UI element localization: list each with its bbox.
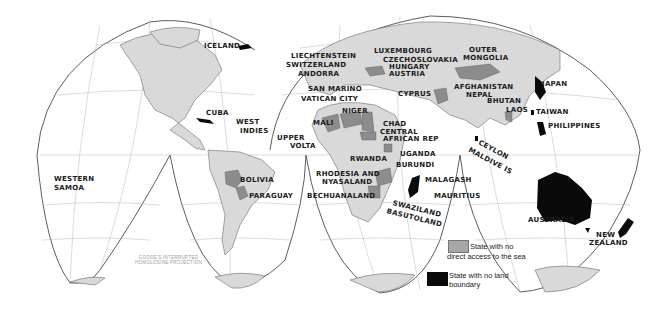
label-chad: CHAD <box>383 120 406 128</box>
label-bechuanaland: BECHUANALAND <box>307 192 375 200</box>
label-cyprus: CYPRUS <box>398 90 431 98</box>
label-paraguay: PARAGUAY <box>249 192 293 200</box>
label-philippines: PHILIPPINES <box>548 122 601 130</box>
legend-label-island: State with no land boundary <box>449 272 509 289</box>
legend-label-landlocked-2: direct access to the sea <box>447 253 526 262</box>
label-liechtenstein: LIECHTENSTEIN <box>291 52 356 60</box>
world-map <box>0 0 651 309</box>
label-bolivia: BOLIVIA <box>240 176 274 184</box>
label-burundi: BURUNDI <box>396 161 434 169</box>
label-austria: AUSTRIA <box>389 70 425 78</box>
label-mali: MALI <box>313 119 334 127</box>
label-outer-mongolia-1: OUTER <box>469 46 497 54</box>
label-western-samoa-2: SAMOA <box>54 184 84 192</box>
legend-swatch-island <box>427 272 448 286</box>
taiwan <box>531 110 534 115</box>
label-japan: JAPAN <box>542 80 567 88</box>
cuba <box>196 118 214 124</box>
label-australia: AUSTRALIA <box>528 216 575 224</box>
label-new-zealand-2: ZEALAND <box>589 239 628 247</box>
label-switzerland: SWITZERLAND <box>286 61 346 69</box>
label-mauritius: MAURITIUS <box>434 192 481 200</box>
uganda <box>384 144 392 152</box>
label-cuba: CUBA <box>206 109 229 117</box>
label-iceland: ICELAND <box>204 42 240 50</box>
label-andorra: ANDORRA <box>298 70 339 78</box>
label-vatican-city: VATICAN CITY <box>301 95 358 103</box>
legend-landlocked-line-1: State with no <box>470 243 513 252</box>
legend-landlocked-line-2: direct access to the sea <box>447 253 526 262</box>
label-san-marino: SAN MARINO <box>308 85 362 93</box>
malagash <box>408 175 420 198</box>
legend-label-landlocked: State with no <box>470 243 513 252</box>
label-western-samoa-1: WESTERN <box>54 175 94 183</box>
label-rwanda: RWANDA <box>350 155 387 163</box>
label-laos: LAOS <box>506 106 528 114</box>
label-rhodesia-2: NYASALAND <box>322 178 372 186</box>
label-malagash: MALAGASH <box>425 176 472 184</box>
label-outer-mongolia-2: MONGOLIA <box>463 54 508 62</box>
tasmania <box>585 228 590 233</box>
antarctica <box>70 277 105 285</box>
label-new-zealand-1: NEW <box>596 231 615 239</box>
label-upper-volta-2: VOLTA <box>290 142 316 150</box>
label-central-african-rep-2: AFRICAN REP <box>383 135 439 143</box>
antarctica <box>350 273 415 292</box>
label-west-indies-1: WEST <box>236 118 260 126</box>
label-bhutan: BHUTAN <box>487 97 521 105</box>
new-zealand <box>618 218 634 238</box>
label-afghanistan: AFGHANISTAN <box>454 83 514 91</box>
label-upper-volta-1: UPPER <box>277 134 305 142</box>
label-luxembourg: LUXEMBOURG <box>374 47 432 55</box>
label-west-indies-2: INDIES <box>240 127 269 135</box>
label-rhodesia-1: RHODESIA AND <box>316 170 380 178</box>
central-african-rep <box>360 132 376 140</box>
antarctica <box>215 273 265 288</box>
projection-note-line-2: HOMOLOSINE PROJECTION <box>135 260 202 265</box>
legend-island-line-2: boundary <box>449 281 509 290</box>
label-taiwan: TAIWAN <box>536 108 569 116</box>
projection-note: GOODE'S INTERRUPTED HOMOLOSINE PROJECTIO… <box>135 255 202 265</box>
chad <box>362 112 374 132</box>
antarctica <box>535 266 600 292</box>
south-america <box>208 150 275 255</box>
ceylon <box>475 136 478 141</box>
philippines <box>537 122 546 136</box>
label-uganda: UGANDA <box>400 150 436 158</box>
label-niger: NIGER <box>342 107 368 115</box>
